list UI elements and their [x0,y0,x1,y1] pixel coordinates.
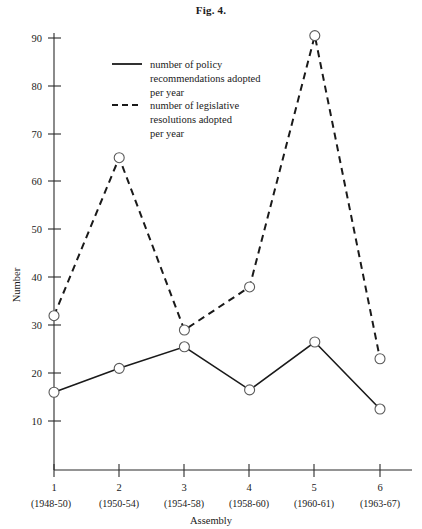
series-line-1 [54,342,380,409]
x-tick-years-6: (1963-67) [360,498,400,510]
data-point-marker [310,31,320,41]
legend-label-solid-line-1: number of policy [150,59,223,70]
x-tick-years-1: (1948-50) [31,498,71,510]
data-point-marker [114,363,124,373]
data-point-marker [310,337,320,347]
legend-label-dashed-line-1: number of legislative [150,100,240,111]
x-tick-number-3: 3 [181,482,186,493]
y-tick-label-10: 10 [32,416,43,427]
y-tick-label-90: 90 [32,33,43,44]
x-tick-number-1: 1 [51,482,56,493]
data-point-marker [375,404,385,414]
y-axis-title: Number [11,267,22,302]
x-axis-title: Assembly [190,515,233,526]
x-tick-number-5: 5 [311,482,316,493]
y-tick-label-40: 40 [32,272,43,283]
x-tick-number-4: 4 [246,482,252,493]
data-point-marker [114,153,124,163]
chart-plot-area: 90 80 70 60 50 40 30 20 10 Number 1 2 3 … [0,0,422,529]
y-tick-label-60: 60 [32,176,43,187]
data-point-marker [179,325,189,335]
series-line-2 [54,36,380,359]
chart-legend: number of policy recommendations adopted… [112,59,261,139]
x-tick-number-2: 2 [116,482,121,493]
y-tick-label-20: 20 [32,368,43,379]
legend-label-solid-line-3: per year [150,87,185,98]
y-tick-label-70: 70 [32,129,43,140]
x-tick-years-2: (1950-54) [99,498,139,510]
data-point-marker [179,342,189,352]
y-axis-tick-labels: 90 80 70 60 50 40 30 20 10 [32,33,43,427]
x-tick-years-4: (1958-60) [229,498,269,510]
data-point-marker [245,385,255,395]
legend-label-dashed-line-2: resolutions adopted [150,114,233,125]
data-point-marker [49,311,59,321]
legend-label-solid-line-2: recommendations adopted [150,73,261,84]
data-point-marker [375,354,385,364]
data-point-marker [245,282,255,292]
figure-container: Fig. 4. 90 80 70 60 50 40 30 20 [0,0,422,529]
x-axis-tick-numbers: 1 2 3 4 5 6 [51,482,382,493]
y-tick-label-30: 30 [32,320,43,331]
y-tick-label-50: 50 [32,224,43,235]
data-point-marker [49,387,59,397]
y-tick-label-80: 80 [32,81,43,92]
legend-label-dashed-line-3: per year [150,128,185,139]
x-tick-years-5: (1960-61) [294,498,334,510]
data-series-layer [49,31,385,414]
x-tick-number-6: 6 [377,482,382,493]
x-axis-tick-subtitles: (1948-50) (1950-54) (1954-58) (1958-60) … [31,498,400,510]
x-tick-years-3: (1954-58) [164,498,204,510]
